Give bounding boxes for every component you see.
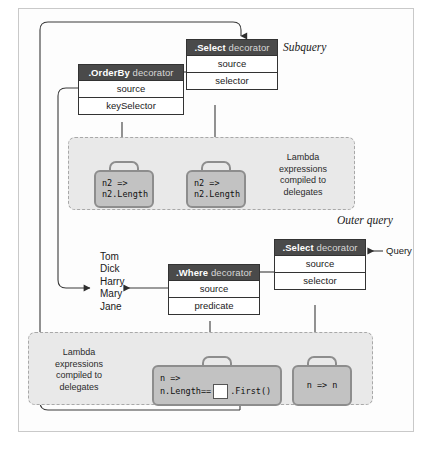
where-decorator-header: .Where decorator bbox=[169, 265, 259, 280]
zone-label-line-4: delegates bbox=[38, 382, 120, 394]
outer-query-label: Outer query bbox=[337, 214, 393, 226]
orderby-decorator-row-source[interactable]: source bbox=[79, 80, 183, 97]
zone-label-line-3: compiled to bbox=[262, 175, 344, 187]
query-entry-label: Query bbox=[386, 245, 412, 256]
select-decorator-outer-suffix: decorator bbox=[314, 242, 358, 253]
delegate-selector-subquery[interactable]: n2 => n2.Length bbox=[186, 161, 246, 208]
select-decorator-subquery-suffix: decorator bbox=[226, 42, 270, 53]
select-decorator-subquery[interactable]: .Select decorator source selector bbox=[186, 39, 278, 90]
select-decorator-outer-header: .Select decorator bbox=[275, 240, 365, 255]
lambda-expr-prefix: n.Length== bbox=[160, 386, 211, 397]
select-decorator-subquery-row-selector[interactable]: selector bbox=[187, 72, 277, 89]
zone-label-line-2: expressions bbox=[38, 359, 120, 371]
select-decorator-outer[interactable]: .Select decorator source selector bbox=[274, 239, 366, 290]
lambda-line-1: n => bbox=[160, 373, 282, 384]
zone-label-line-1: Lambda bbox=[262, 152, 344, 164]
where-decorator-row-predicate[interactable]: predicate bbox=[169, 297, 259, 314]
orderby-decorator[interactable]: .OrderBy decorator source keySelector bbox=[78, 64, 184, 115]
delegate-predicate-outer-code: n => n.Length== .First() bbox=[152, 365, 282, 406]
zone-label-line-3: compiled to bbox=[38, 370, 120, 382]
where-decorator[interactable]: .Where decorator source predicate bbox=[168, 264, 260, 315]
orderby-decorator-suffix: decorator bbox=[130, 67, 174, 78]
where-decorator-name: .Where bbox=[176, 267, 208, 278]
lambda-line-1: n2 => bbox=[102, 178, 154, 189]
lambda-line-2: n2.Length bbox=[194, 189, 246, 200]
list-item: Harry bbox=[100, 276, 124, 288]
delegate-selector-outer[interactable]: n => n bbox=[292, 356, 352, 406]
subquery-result-placeholder[interactable] bbox=[213, 384, 228, 399]
select-decorator-outer-row-selector[interactable]: selector bbox=[275, 272, 365, 289]
source-sequence-list: Tom Dick Harry Mary Jane bbox=[100, 251, 124, 313]
list-item: Tom bbox=[100, 251, 124, 263]
select-decorator-subquery-header: .Select decorator bbox=[187, 40, 277, 55]
where-decorator-suffix: decorator bbox=[208, 267, 252, 278]
lambda-expr-suffix: .First() bbox=[230, 386, 271, 397]
orderby-decorator-row-keyselector[interactable]: keySelector bbox=[79, 97, 183, 114]
list-item: Mary bbox=[100, 288, 124, 300]
zone-label-line-2: expressions bbox=[262, 164, 344, 176]
select-decorator-subquery-row-source[interactable]: source bbox=[187, 55, 277, 72]
list-item: Jane bbox=[100, 301, 124, 313]
delegate-zone-outer-label: Lambda expressions compiled to delegates bbox=[38, 347, 120, 393]
lambda-line-1: n2 => bbox=[194, 178, 246, 189]
delegate-selector-outer-code: n => n bbox=[292, 365, 352, 406]
orderby-decorator-header: .OrderBy decorator bbox=[79, 65, 183, 80]
figure-canvas: .Select decorator source selector Subque… bbox=[0, 0, 433, 450]
zone-label-line-4: delegates bbox=[262, 187, 344, 199]
delegate-selector-subquery-code: n2 => n2.Length bbox=[186, 170, 246, 208]
lambda-line-1: n => n bbox=[307, 380, 338, 391]
zone-label-line-1: Lambda bbox=[38, 347, 120, 359]
select-decorator-outer-name: .Select bbox=[282, 242, 313, 253]
lambda-line-2: n.Length== .First() bbox=[160, 384, 282, 399]
select-decorator-subquery-name: .Select bbox=[194, 42, 225, 53]
delegate-zone-subquery-label: Lambda expressions compiled to delegates bbox=[262, 152, 344, 198]
orderby-decorator-name: .OrderBy bbox=[88, 67, 129, 78]
select-decorator-outer-row-source[interactable]: source bbox=[275, 255, 365, 272]
list-item: Dick bbox=[100, 263, 124, 275]
delegate-predicate-outer[interactable]: n => n.Length== .First() bbox=[152, 356, 282, 406]
lambda-line-2: n2.Length bbox=[102, 189, 154, 200]
delegate-keyselector-subquery[interactable]: n2 => n2.Length bbox=[94, 161, 154, 208]
delegate-keyselector-subquery-code: n2 => n2.Length bbox=[94, 170, 154, 208]
subquery-label: Subquery bbox=[283, 41, 326, 53]
where-decorator-row-source[interactable]: source bbox=[169, 280, 259, 297]
